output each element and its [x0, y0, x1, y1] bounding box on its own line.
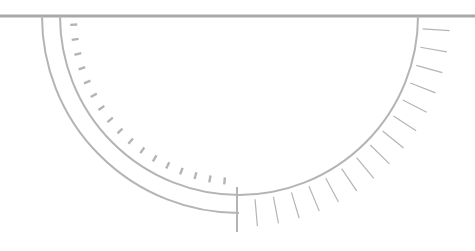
tick-mark — [166, 162, 169, 168]
tick-mark — [393, 116, 416, 131]
tick-mark — [342, 169, 357, 191]
outer-arc — [42, 16, 239, 213]
tick-mark — [357, 158, 374, 179]
tick-mark — [107, 118, 112, 122]
tick-mark — [410, 83, 435, 93]
right-tick-group — [255, 29, 449, 226]
tick-mark — [416, 65, 442, 72]
tick-mark — [224, 177, 225, 184]
tick-mark — [273, 197, 278, 224]
tick-mark — [140, 147, 144, 153]
tick-mark — [153, 155, 157, 161]
tick-mark — [84, 81, 90, 84]
tick-mark — [291, 192, 299, 218]
tick-mark — [195, 172, 197, 179]
tick-mark — [117, 129, 122, 134]
tick-mark — [420, 47, 447, 52]
tick-mark — [383, 131, 404, 148]
tick-mark — [423, 29, 450, 31]
tick-mark — [75, 53, 82, 55]
tick-mark — [255, 199, 257, 226]
gauge-canvas — [0, 0, 475, 251]
tick-mark — [403, 100, 427, 112]
tick-mark — [309, 186, 319, 211]
tick-mark — [91, 94, 97, 97]
tick-mark — [72, 39, 79, 40]
tick-mark — [180, 168, 182, 175]
tick-mark — [79, 67, 86, 69]
tick-mark — [326, 178, 339, 202]
gauge-diagram — [0, 0, 475, 251]
left-tick-group — [70, 24, 225, 184]
tick-mark — [98, 106, 104, 110]
tick-mark — [370, 145, 389, 164]
tick-mark — [209, 175, 210, 182]
tick-mark — [128, 138, 133, 143]
